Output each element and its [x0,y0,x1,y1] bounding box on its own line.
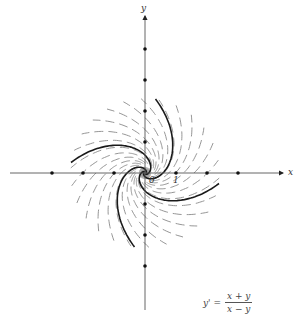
origin-label: 0 [149,176,155,185]
y-axis-label: y [141,4,146,13]
x-axis-label: x [288,168,293,177]
equation-numerator: x + y [225,291,252,303]
unit-label: 1 [173,176,179,185]
equation-label: y' = x + y x − y [203,291,252,314]
equation-fraction: x + y x − y [225,291,252,314]
equation-denominator: x − y [225,303,252,314]
equation-lhs: y' = [203,298,221,308]
direction-field-diagram [0,0,298,316]
